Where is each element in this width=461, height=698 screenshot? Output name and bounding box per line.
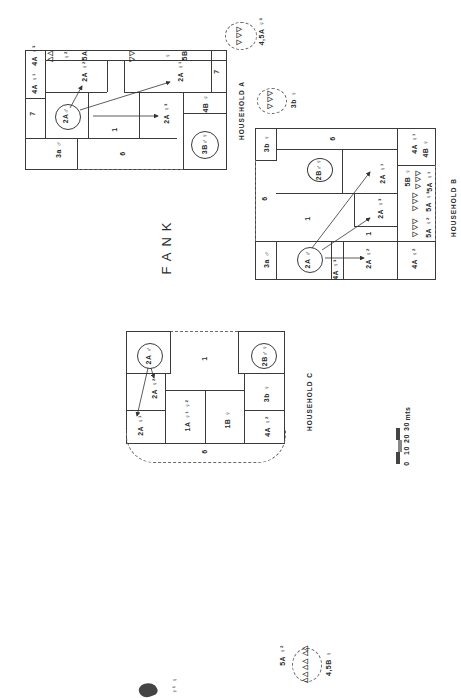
relationship-arrows	[0, 0, 461, 698]
fank-diagram: FANK 7 4A ♀¹ 4A ♀³ △△ ♀² 5A 2A ♀² 3a ♂ 1…	[0, 0, 461, 698]
